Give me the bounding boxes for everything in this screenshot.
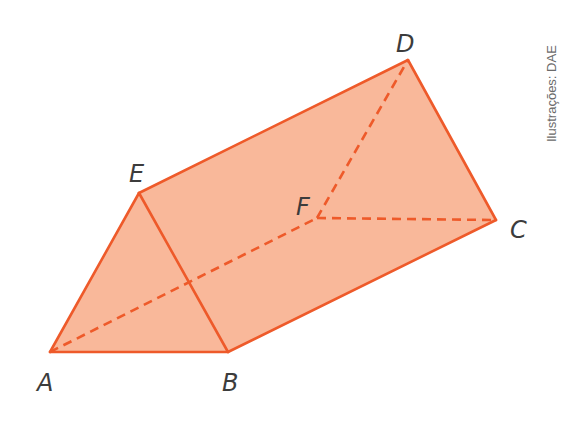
vertex-label-B: B — [222, 369, 238, 397]
vertex-label-A: A — [35, 369, 53, 397]
vertex-label-F: F — [296, 193, 311, 221]
triangular-prism-diagram: D E F C A B Ilustrações: DAE — [0, 0, 568, 427]
vertex-label-C: C — [510, 216, 527, 244]
vertex-label-D: D — [396, 30, 414, 58]
illustration-credit: Ilustrações: DAE — [544, 45, 559, 142]
prism-silhouette — [50, 60, 496, 352]
vertex-label-E: E — [129, 160, 145, 188]
